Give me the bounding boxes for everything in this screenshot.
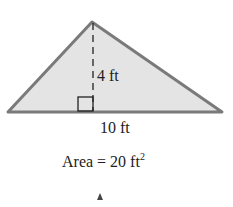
base-label: 10 ft	[100, 120, 130, 136]
area-label: Area = 20 ft2	[62, 154, 145, 170]
triangle-diagram	[0, 0, 233, 207]
bottom-arrow-glyph	[97, 193, 103, 200]
area-text: Area = 20 ft	[62, 153, 140, 170]
area-exponent: 2	[140, 151, 145, 162]
height-label: 4 ft	[97, 68, 119, 84]
